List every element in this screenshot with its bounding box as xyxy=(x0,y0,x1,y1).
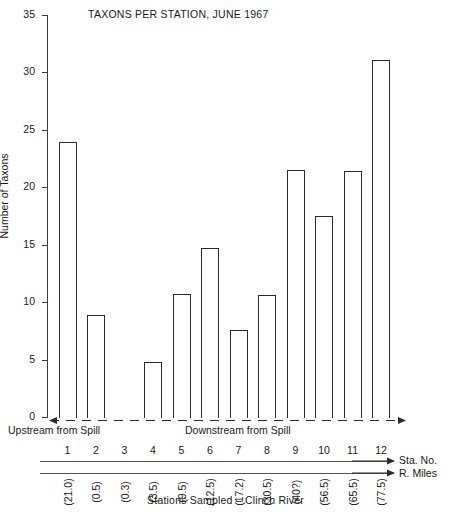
r-miles-annotation: R. Miles xyxy=(399,467,437,479)
chart-figure: TAXONS PER STATION, JUNE 1967 0510152025… xyxy=(0,0,451,515)
annotation-arrows xyxy=(0,0,451,515)
sta-no-annotation: Sta. No. xyxy=(399,454,437,466)
x-axis-caption: Stations Sampled – Clinch River xyxy=(0,494,451,506)
